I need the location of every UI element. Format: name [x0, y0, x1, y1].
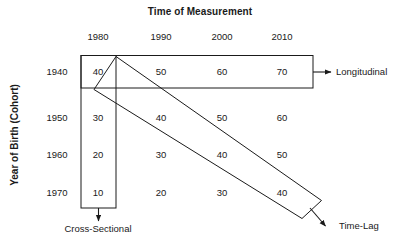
- cell-1960-1990: 30: [156, 150, 167, 160]
- cell-1970-2010: 40: [277, 188, 288, 198]
- longitudinal-band: [81, 56, 331, 89]
- cell-1940-1990: 50: [156, 67, 167, 77]
- cell-1970-1980: 10: [93, 188, 104, 198]
- design-diagram-figure: Time of Measurement Year of Birth (Cohor…: [0, 0, 408, 251]
- y-axis-title: Year of Birth (Cohort): [9, 84, 20, 186]
- time-lag-label: Time-Lag: [339, 221, 379, 231]
- cell-1960-2000: 40: [217, 150, 228, 160]
- cell-1940-1980: 40: [93, 67, 104, 77]
- row-header-1940: 1940: [46, 67, 67, 77]
- cell-1940-2010: 70: [277, 67, 288, 77]
- row-header-1950: 1950: [46, 113, 67, 123]
- cell-1950-1990: 40: [156, 113, 167, 123]
- cell-1950-1980: 30: [93, 113, 104, 123]
- cell-1970-1990: 20: [156, 188, 167, 198]
- page-title: Time of Measurement: [148, 7, 253, 17]
- cell-1960-1980: 20: [93, 150, 104, 160]
- column-header-1990: 1990: [150, 32, 171, 42]
- row-header-1960: 1960: [46, 150, 67, 160]
- longitudinal-label: Longitudinal: [336, 67, 387, 77]
- time-lag-arrow: [310, 208, 326, 226]
- column-header-2000: 2000: [211, 32, 232, 42]
- row-header-1970: 1970: [46, 188, 67, 198]
- cross-sectional-label: Cross-Sectional: [64, 224, 131, 234]
- time-lag-band: [94, 57, 326, 227]
- diagram-vector-layer: [0, 0, 408, 251]
- cell-1970-2000: 30: [217, 188, 228, 198]
- cell-1960-2010: 50: [277, 150, 288, 160]
- column-header-2010: 2010: [271, 32, 292, 42]
- cell-1940-2000: 60: [217, 67, 228, 77]
- cell-1950-2010: 60: [277, 113, 288, 123]
- cell-1950-2000: 50: [217, 113, 228, 123]
- column-header-1980: 1980: [87, 32, 108, 42]
